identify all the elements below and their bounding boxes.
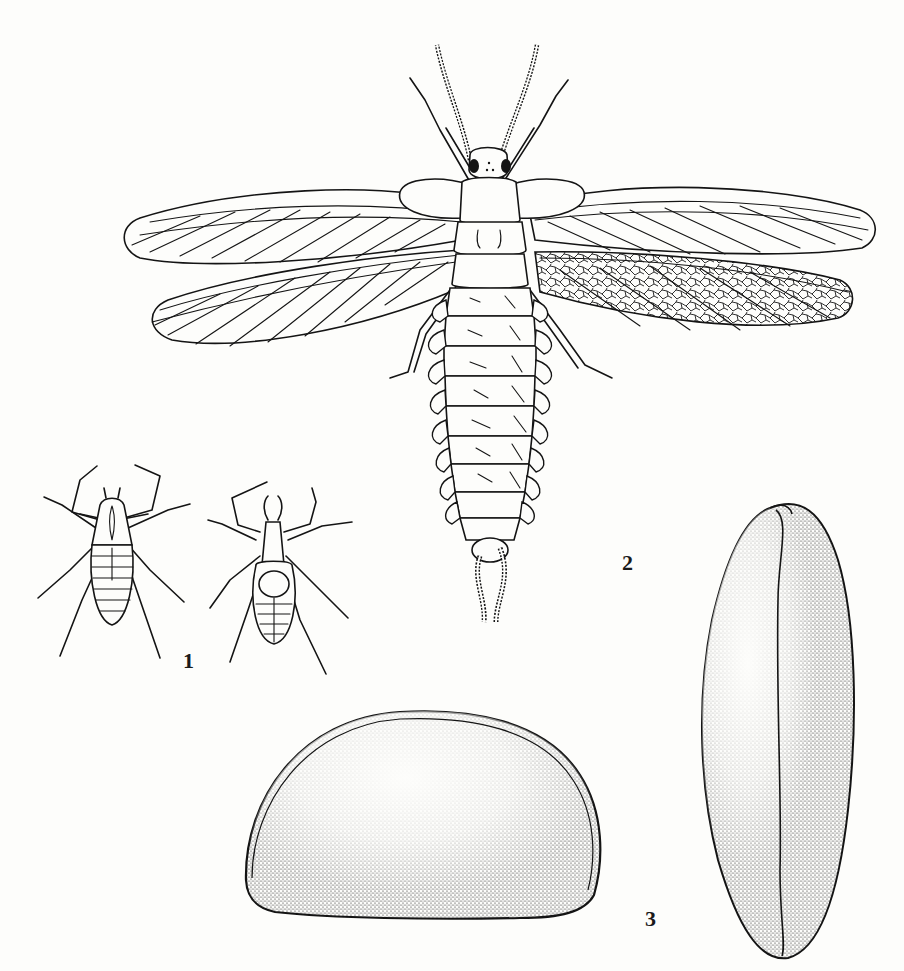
insect-cerci xyxy=(472,538,508,622)
figure-3-end-view xyxy=(702,504,854,958)
insect-thorax xyxy=(452,178,528,289)
illustration-plate: 1 2 3 xyxy=(0,0,904,971)
figure-1-arachnid-ventral xyxy=(208,482,352,674)
right-hindwing xyxy=(535,252,853,330)
figure-label-2: 2 xyxy=(622,552,633,574)
figure-label-3: 3 xyxy=(645,908,656,930)
figure-1-arachnid-dorsal xyxy=(38,465,190,658)
antennae xyxy=(437,45,537,160)
insect-head xyxy=(469,148,511,180)
plate-artwork xyxy=(0,0,904,971)
figure-label-1: 1 xyxy=(183,650,194,672)
left-hindwing xyxy=(152,250,462,346)
insect-abdomen xyxy=(428,288,551,540)
figure-3-lateral-view xyxy=(246,711,600,918)
